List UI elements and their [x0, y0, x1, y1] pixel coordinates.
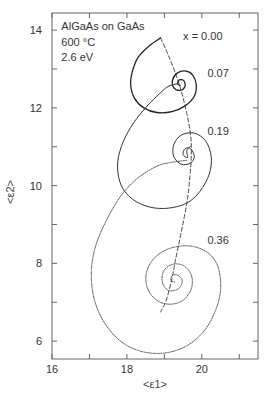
y-tick-label: 14	[30, 24, 42, 36]
x-tick-label: 16	[46, 363, 58, 375]
series-line-x-0-07-0-19	[118, 84, 212, 209]
series-line-locus	[161, 38, 192, 312]
annotation: 600 °C	[61, 36, 95, 48]
series-line-x-0-00-0-07	[131, 38, 197, 113]
annotation: AlGaAs on GaAs	[61, 20, 145, 32]
y-tick-label: 6	[36, 335, 42, 347]
y-axis-label: <ε2>	[4, 180, 16, 204]
annotation: 0.19	[207, 125, 228, 137]
plot-frame	[52, 13, 258, 359]
y-tick-label: 12	[30, 102, 42, 114]
x-axis-label: <ε1>	[143, 378, 167, 390]
y-tick-label: 8	[36, 257, 42, 269]
x-tick-label: 20	[196, 363, 208, 375]
annotation: 0.07	[207, 67, 228, 79]
x-tick-label: 18	[121, 363, 133, 375]
annotation: x = 0.00	[183, 30, 222, 42]
annotation: 0.36	[207, 234, 228, 246]
y-tick-label: 10	[30, 180, 42, 192]
annotation: 2.6 eV	[61, 51, 93, 63]
chart: 16182068101214AlGaAs on GaAs600 °C2.6 eV…	[0, 0, 269, 396]
